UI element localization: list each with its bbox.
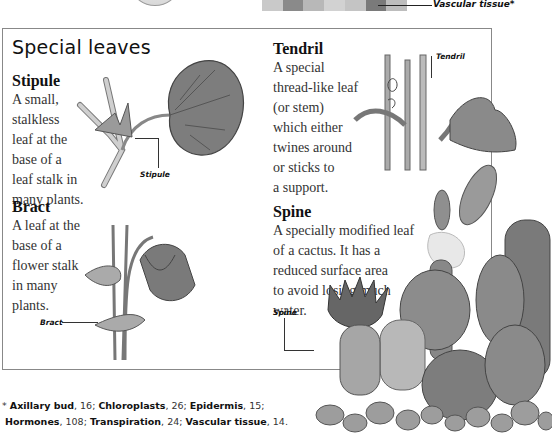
vascular-tissue-pointer	[378, 5, 432, 6]
stipule-label: Stipule	[140, 170, 170, 179]
previous-illustration-fragment	[133, 0, 177, 6]
footnote-term-chloroplasts: Chloroplasts	[98, 400, 165, 411]
bract-pointer	[62, 322, 98, 323]
vascular-tissue-label: Vascular tissue*	[433, 0, 515, 9]
spine-label: Spine	[273, 308, 297, 317]
footnote-term-vascular-tissue: Vascular tissue	[185, 416, 266, 427]
tendril-illustration	[350, 50, 550, 170]
bract-heading: Bract	[12, 198, 50, 216]
footnote: * Axillary bud, 16; Chloroplasts, 26; Ep…	[2, 398, 288, 430]
stipule-heading: Stipule	[12, 72, 60, 90]
tendril-heading: Tendril	[273, 40, 323, 58]
footnote-term-axillary-bud: Axillary bud	[10, 400, 74, 411]
cactus-illustration	[310, 165, 552, 434]
stipule-pointer	[135, 138, 159, 139]
stipule-pointer-v	[158, 138, 159, 168]
spine-heading: Spine	[273, 203, 311, 221]
footnote-term-hormones: Hormones	[5, 416, 59, 427]
tendril-pointer	[431, 56, 432, 78]
stipule-illustration	[70, 55, 250, 185]
spine-pointer-v	[284, 318, 285, 350]
bract-illustration	[85, 215, 235, 365]
footnote-term-epidermis: Epidermis	[190, 400, 243, 411]
bract-description: A leaf at the base of a flower stalk in …	[12, 216, 80, 316]
tendril-label: Tendril	[436, 52, 465, 61]
bract-label: Bract	[40, 318, 63, 327]
footnote-term-transpiration: Transpiration	[90, 416, 161, 427]
